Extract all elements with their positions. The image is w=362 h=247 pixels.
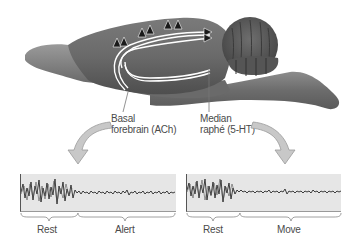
curved-arrow-right-icon: [245, 118, 305, 168]
eeg-left-label-alert: Alert: [115, 224, 135, 235]
eeg-bracket-left: [20, 212, 176, 222]
curved-arrow-left-icon: [60, 118, 120, 168]
eeg-trace-right: [187, 174, 341, 211]
eeg-right-label-move: Move: [277, 224, 301, 235]
eeg-trace-panel-right: [186, 174, 341, 212]
eeg-trace-left: [21, 174, 176, 211]
basal-forebrain-line1: Basal: [111, 113, 176, 124]
eeg-right-label-rest: Rest: [203, 224, 223, 235]
cerebellum: [222, 17, 278, 76]
basal-forebrain-line2: forebrain (ACh): [111, 124, 176, 135]
eeg-bracket-right: [186, 212, 342, 222]
basal-forebrain-label: Basal forebrain (ACh): [111, 113, 176, 135]
eeg-left-label-rest: Rest: [37, 224, 57, 235]
eeg-trace-panel-left: [20, 174, 176, 212]
basal-forebrain-leader: [123, 92, 128, 112]
rat-brain-illustration: [0, 0, 362, 125]
